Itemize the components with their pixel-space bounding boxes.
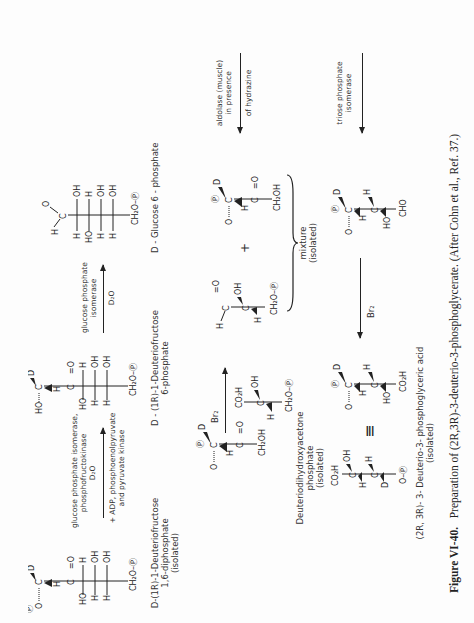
svg-text:H: H: [216, 323, 225, 329]
svg-text:CH₂O–Ⓟ: CH₂O–Ⓟ: [131, 192, 140, 225]
svg-text:D: D: [198, 424, 207, 430]
svg-text:OH: OH: [97, 185, 106, 197]
svg-text:C: C: [371, 382, 380, 388]
svg-text:H: H: [359, 482, 368, 488]
svg-text:=O: =O: [251, 176, 260, 189]
svg-text:C: C: [242, 305, 251, 311]
svg-text:CH₂OH: CH₂OH: [273, 184, 282, 211]
svg-text:O: O: [345, 404, 354, 410]
svg-text:Ⓟ: Ⓟ: [28, 605, 34, 613]
svg-text:H: H: [363, 189, 372, 195]
svg-text:Ⓟ: Ⓟ: [211, 195, 220, 203]
figure-number: Figure VI-40.: [448, 527, 460, 593]
svg-text:C: C: [67, 579, 76, 585]
svg-text:C: C: [349, 472, 358, 478]
svg-text:H: H: [109, 233, 118, 239]
pfk-arrow: [103, 428, 104, 518]
figure-caption: Figure VI-40. Preparation of (2R,3R)-3-d…: [448, 134, 460, 593]
mixture-label: mixture (isolated): [298, 213, 318, 273]
plus-sign: +: [240, 243, 250, 253]
fructose-6-phosphate-label: D - (1R)-1-Deuteriofructose 6-phosphate: [150, 308, 170, 428]
figure-caption-text: Preparation of (2R,3R)-3-deuterio-3-phos…: [448, 134, 460, 519]
dhap-isolated-structure: ⓅO CD H C=O CH₂OH: [195, 398, 270, 478]
svg-text:H: H: [97, 233, 106, 239]
svg-text:C: C: [371, 207, 380, 213]
svg-text:D: D: [28, 370, 36, 376]
svg-text:HO: HO: [85, 231, 94, 243]
tpi-arrow: [362, 53, 363, 133]
glyceraldehyde-phosphate-deuterio-structure: ⓅO CD H CH HO CHO: [330, 163, 410, 243]
svg-text:HO: HO: [383, 217, 392, 229]
svg-text:H: H: [103, 400, 112, 406]
svg-text:H: H: [73, 233, 82, 239]
svg-text:D: D: [213, 179, 222, 185]
svg-text:C: C: [251, 197, 260, 203]
svg-text:OH: OH: [251, 376, 260, 388]
glucose-6-phosphate-label: D - Glucose 6 - phosphate: [150, 143, 160, 253]
svg-text:CH₂O–Ⓟ: CH₂O–Ⓟ: [270, 282, 279, 315]
svg-text:H: H: [359, 390, 368, 396]
dhap-isolated-label: Deuteriodihydroxyacetone phosphate (isol…: [295, 403, 325, 533]
svg-text:D: D: [28, 565, 36, 571]
svg-text:H: H: [363, 364, 372, 370]
svg-text:C: C: [225, 197, 234, 203]
svg-text:CO₂H: CO₂H: [399, 371, 408, 392]
svg-text:H: H: [79, 362, 88, 368]
svg-text:=O: =O: [236, 421, 245, 434]
svg-text:C: C: [345, 382, 354, 388]
aldolase-arrow: [240, 53, 241, 133]
svg-text:OH: OH: [103, 356, 112, 368]
pfk-label-above: glucose phosphate isomerase, phosphofruc…: [70, 418, 97, 528]
svg-text:O: O: [35, 603, 44, 609]
svg-text:C: C: [345, 207, 354, 213]
svg-text:OH: OH: [234, 283, 243, 295]
svg-text:CH₂O–Ⓟ: CH₂O–Ⓟ: [129, 363, 138, 396]
svg-text:H: H: [79, 557, 88, 563]
svg-text:H: H: [359, 215, 368, 221]
svg-text:C: C: [59, 213, 68, 219]
svg-text:CO₂H: CO₂H: [331, 465, 340, 486]
br2-bottom-label: Br₂: [366, 305, 376, 318]
svg-text:H: H: [103, 595, 112, 601]
svg-text:HO: HO: [35, 402, 44, 414]
rotated-page: H CO HOH HOH HOH HOH CH₂O–Ⓟ D - Glucose …: [0, 0, 474, 623]
svg-text:HO: HO: [383, 392, 392, 404]
svg-text:OH: OH: [109, 185, 118, 197]
glyceraldehyde-phosphate-structure: H C=O COH H CH₂O–Ⓟ: [205, 253, 285, 333]
svg-text:O: O: [345, 229, 354, 235]
svg-text:OH: OH: [73, 185, 82, 197]
svg-text:=O: =O: [67, 361, 76, 374]
svg-text:C: C: [371, 472, 380, 478]
svg-text:C: C: [222, 305, 231, 311]
svg-text:H: H: [226, 450, 235, 456]
fructose-6-phosphate-structure: HO CD H =OC HOH HOH HOH CH₂O–Ⓟ: [28, 318, 143, 418]
svg-text:CH₂O–Ⓟ: CH₂O–Ⓟ: [285, 379, 294, 412]
svg-text:C: C: [35, 579, 44, 585]
br2-bottom-arrow: [360, 258, 361, 338]
svg-text:D: D: [381, 482, 390, 488]
svg-text:H: H: [365, 456, 374, 462]
svg-text:C: C: [35, 384, 44, 390]
svg-text:OH: OH: [91, 551, 100, 563]
mixture-brace: [285, 173, 299, 313]
svg-text:C: C: [236, 442, 245, 448]
svg-text:H: H: [51, 229, 60, 235]
svg-text:O: O: [210, 464, 219, 470]
svg-text:Ⓟ: Ⓟ: [331, 380, 340, 388]
pfk-label-below: + ADP, phosphoenolpyruvate and pyruvate …: [108, 408, 126, 528]
glucose-6-phosphate-structure: H CO HOH HOH HOH HOH CH₂O–Ⓟ: [40, 143, 140, 243]
tpi-label: triose phosphate isomerase: [335, 53, 353, 133]
svg-text:H: H: [241, 205, 250, 211]
svg-text:H: H: [53, 581, 62, 587]
svg-text:O: O: [42, 201, 51, 207]
svg-text:O–Ⓟ: O–Ⓟ: [399, 466, 408, 484]
aldolase-label-below: of hydrazine: [244, 53, 253, 133]
svg-text:O: O: [225, 219, 234, 225]
fructose-16-diphosphate-structure: O Ⓟ CD H =OC HOH HOH HOH CH₂O–Ⓟ: [28, 513, 143, 613]
svg-text:CH₂O–Ⓟ: CH₂O–Ⓟ: [129, 558, 138, 591]
svg-text:=O: =O: [212, 280, 221, 293]
svg-text:OH: OH: [91, 356, 100, 368]
svg-text:OH: OH: [343, 450, 352, 462]
svg-text:CH₂OH: CH₂OH: [258, 429, 267, 456]
svg-text:D: D: [333, 189, 342, 195]
